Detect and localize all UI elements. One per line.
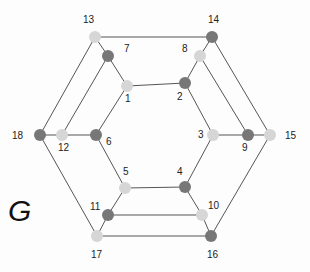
node-6	[90, 129, 102, 141]
node-7	[102, 50, 114, 62]
graph-diagram: 123456789101112131415161718 G	[0, 0, 310, 272]
edge-2-3	[185, 83, 213, 135]
node-label-8: 8	[182, 43, 188, 54]
node-18	[34, 129, 46, 141]
node-label-14: 14	[208, 14, 220, 25]
node-4	[179, 181, 191, 193]
edge-6-1	[96, 86, 127, 135]
node-label-5: 5	[123, 166, 129, 177]
node-label-9: 9	[242, 142, 248, 153]
node-13	[89, 31, 101, 43]
node-label-4: 4	[177, 166, 183, 177]
graph-canvas: 123456789101112131415161718 G	[0, 0, 310, 272]
edge-18-13	[40, 37, 95, 135]
node-label-6: 6	[106, 136, 112, 147]
node-15	[264, 129, 276, 141]
node-1	[121, 80, 133, 92]
node-label-17: 17	[91, 249, 103, 260]
edge-3-4	[185, 135, 213, 187]
node-label-3: 3	[198, 129, 204, 140]
node-label-13: 13	[83, 14, 95, 25]
node-16	[205, 230, 217, 242]
node-label-12: 12	[58, 142, 70, 153]
graph-title: G	[8, 194, 31, 227]
node-10	[196, 209, 208, 221]
node-12	[56, 129, 68, 141]
edge-1-2	[127, 83, 185, 86]
nodes-layer	[34, 31, 276, 242]
node-11	[102, 209, 114, 221]
node-label-15: 15	[285, 130, 297, 141]
node-label-1: 1	[125, 93, 131, 104]
edge-8-9	[200, 56, 248, 135]
node-label-16: 16	[207, 249, 219, 260]
node-label-7: 7	[124, 43, 130, 54]
node-9	[242, 129, 254, 141]
node-label-10: 10	[208, 200, 220, 211]
node-label-18: 18	[12, 130, 24, 141]
node-label-2: 2	[177, 91, 183, 102]
edges-layer	[40, 37, 270, 236]
edge-14-15	[212, 37, 270, 135]
node-5	[119, 182, 131, 194]
node-14	[206, 31, 218, 43]
node-8	[194, 50, 206, 62]
edge-15-16	[211, 135, 270, 236]
node-3	[207, 129, 219, 141]
labels-layer: 123456789101112131415161718	[12, 14, 297, 260]
node-2	[179, 77, 191, 89]
node-17	[91, 230, 103, 242]
edge-7-12	[62, 56, 108, 135]
node-label-11: 11	[90, 201, 101, 212]
edge-4-5	[125, 187, 185, 188]
